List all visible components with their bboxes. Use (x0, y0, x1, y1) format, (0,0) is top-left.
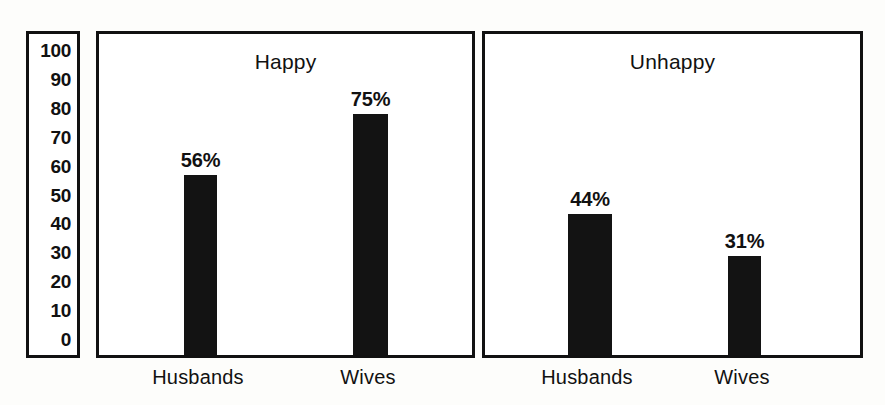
bar-value-happy-wives: 75% (351, 88, 390, 111)
y-axis-tick-10: 10 (50, 301, 71, 320)
y-axis-tick-60: 60 (50, 156, 71, 175)
panel-happy: Happy 56% 75% (96, 31, 475, 358)
y-axis-tick-100: 100 (40, 41, 71, 60)
y-axis-tick-80: 80 (50, 98, 71, 117)
bar-chart-figure: 100 90 80 70 60 50 40 30 20 10 0 Happy 5… (0, 0, 885, 405)
category-label-happy-wives: Wives (340, 366, 395, 389)
y-axis-tick-90: 90 (50, 69, 71, 88)
category-label-unhappy-husbands: Husbands (541, 366, 633, 389)
panel-unhappy: Unhappy 44% 31% (482, 31, 863, 358)
bar-value-unhappy-husbands: 44% (570, 188, 609, 211)
panel-title-happy: Happy (99, 50, 472, 74)
y-axis-tick-20: 20 (50, 272, 71, 291)
category-label-happy-husbands: Husbands (152, 366, 244, 389)
y-axis-tick-70: 70 (50, 127, 71, 146)
y-axis-tick-40: 40 (50, 214, 71, 233)
bar-unhappy-husbands: 44% (568, 214, 612, 355)
category-label-unhappy-wives: Wives (714, 366, 769, 389)
bar-happy-husbands: 56% (184, 175, 217, 355)
bar-value-happy-husbands: 56% (181, 149, 220, 172)
bar-happy-wives: 75% (353, 114, 388, 355)
y-axis-tick-0: 0 (61, 329, 71, 348)
bar-unhappy-wives: 31% (728, 256, 761, 356)
y-axis-scale-box: 100 90 80 70 60 50 40 30 20 10 0 (26, 31, 80, 358)
y-axis-tick-50: 50 (50, 185, 71, 204)
panel-title-unhappy: Unhappy (485, 50, 860, 74)
bar-value-unhappy-wives: 31% (725, 230, 764, 253)
y-axis-tick-30: 30 (50, 243, 71, 262)
